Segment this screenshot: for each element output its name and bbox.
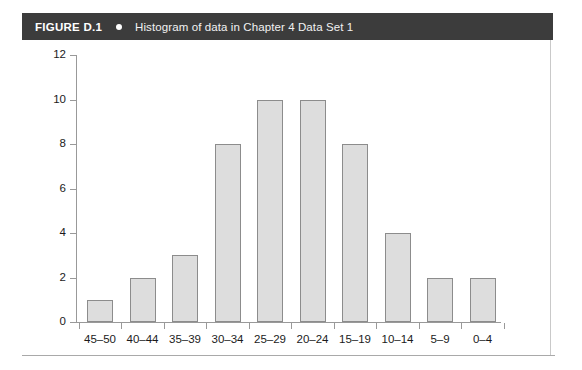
- x-axis-tick-mark: [461, 323, 462, 329]
- y-axis-tick-label: 8: [36, 138, 66, 150]
- x-axis-tick-mark: [164, 323, 165, 329]
- histogram-bar: [257, 100, 283, 323]
- histogram-bar: [427, 278, 453, 323]
- histogram-bar: [470, 278, 496, 323]
- y-axis-tick-mark: [70, 144, 76, 145]
- histogram-bar: [130, 278, 156, 323]
- x-axis-tick-mark: [504, 323, 505, 329]
- figure-header-bar: FIGURE D.1 Histogram of data in Chapter …: [22, 13, 553, 40]
- figure-number-label: FIGURE D.1: [35, 21, 102, 33]
- bullet-dot-icon: [116, 24, 122, 30]
- histogram-bar: [300, 100, 326, 323]
- x-axis-tick-mark: [79, 323, 80, 329]
- y-axis-tick-label: 4: [36, 227, 66, 239]
- histogram-bar: [172, 255, 198, 322]
- histogram-bar: [215, 144, 241, 322]
- x-axis-tick-mark: [206, 323, 207, 329]
- x-axis-tick-label: 0–4: [453, 334, 513, 346]
- y-axis-line: [76, 55, 77, 323]
- figure-frame: FIGURE D.1 Histogram of data in Chapter …: [0, 0, 582, 370]
- x-axis-tick-mark: [419, 323, 420, 329]
- histogram-bar: [385, 233, 411, 322]
- x-axis-tick-mark: [376, 323, 377, 329]
- figure-caption-title: Histogram of data in Chapter 4 Data Set …: [135, 21, 353, 33]
- y-axis-tick-label: 2: [36, 272, 66, 284]
- y-axis-tick-mark: [70, 100, 76, 101]
- x-axis-line: [76, 322, 501, 323]
- frame-bottom-rule: [22, 355, 555, 356]
- y-axis-tick-mark: [70, 278, 76, 279]
- y-axis-tick-label: 6: [36, 183, 66, 195]
- y-axis-tick-mark: [70, 189, 76, 190]
- y-axis-tick-label: 0: [36, 316, 66, 328]
- y-axis-tick-mark: [70, 55, 76, 56]
- y-axis-tick-mark: [70, 233, 76, 234]
- x-axis-tick-mark: [291, 323, 292, 329]
- histogram-chart: 024681012 45–5040–4435–3930–3425–2920–24…: [0, 40, 582, 370]
- x-axis-tick-mark: [121, 323, 122, 329]
- x-axis-tick-mark: [334, 323, 335, 329]
- y-axis-tick-labels: 024681012: [32, 40, 66, 370]
- y-axis-tick-label: 10: [36, 94, 66, 106]
- y-axis-tick-label: 12: [36, 49, 66, 61]
- x-axis-tick-mark: [249, 323, 250, 329]
- histogram-bar: [342, 144, 368, 322]
- frame-right-rule: [550, 40, 551, 356]
- histogram-bar: [87, 300, 113, 322]
